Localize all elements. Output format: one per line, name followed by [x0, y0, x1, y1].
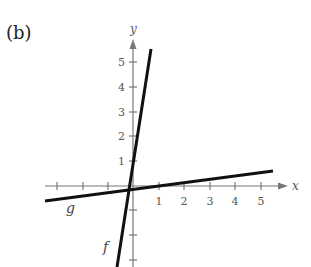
x-axis-label: x [292, 179, 299, 193]
x-axis-arrow-icon [278, 183, 288, 190]
y-tick-label: 5 [118, 56, 125, 69]
graph: 1 2 3 4 5 x 5 4 3 2 1 y g f [0, 0, 311, 267]
y-axis-arrow-icon [130, 39, 137, 49]
x-tick-label: 5 [258, 195, 265, 208]
y-tick-label: 1 [118, 155, 125, 168]
y-tick-label: 3 [118, 106, 125, 119]
x-tick-label: 4 [232, 195, 239, 208]
y-axis-label: y [129, 22, 137, 36]
x-tick-label: 1 [156, 195, 163, 208]
x-tick-label: 2 [181, 195, 188, 208]
label-g: g [66, 200, 75, 216]
y-tick-label: 2 [118, 130, 125, 143]
label-f: f [102, 239, 111, 255]
y-axis: 5 4 3 2 1 y [118, 22, 137, 267]
x-tick-label: 3 [207, 195, 214, 208]
y-tick-label: 4 [118, 81, 125, 94]
